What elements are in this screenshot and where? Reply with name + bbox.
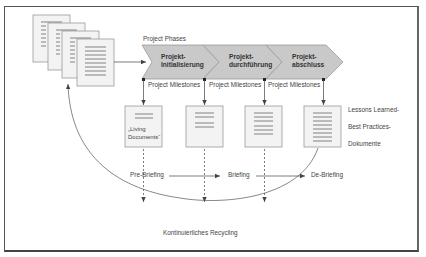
milestone-label-2: Project Milestones — [209, 82, 261, 88]
lessons-label-3: Dokumente — [348, 141, 381, 147]
phase-initialisierung: Projekt- Initialisierung — [161, 53, 204, 69]
lessons-label-2: Best Practices- — [348, 124, 391, 130]
de-briefing-label: De-Briefing — [311, 172, 343, 178]
briefing-label: Briefing — [228, 172, 250, 178]
living-documents-label: „Living Documents“ — [128, 126, 160, 141]
milestone-label-1: Project Milestones — [148, 82, 200, 88]
lessons-label-1: Lessons Learned- — [348, 107, 399, 113]
pre-briefing-label: Pre-Briefing — [130, 172, 164, 178]
phases-title: Project Phases — [143, 36, 186, 42]
milestone-label-3: Project Milestones — [268, 82, 320, 88]
phase-durchfuehrung: Projekt- durchführung — [229, 53, 272, 69]
phase-abschluss: Projekt- abschluss — [292, 53, 324, 69]
recycling-label: Kontinuierliches Recycling — [163, 230, 238, 236]
